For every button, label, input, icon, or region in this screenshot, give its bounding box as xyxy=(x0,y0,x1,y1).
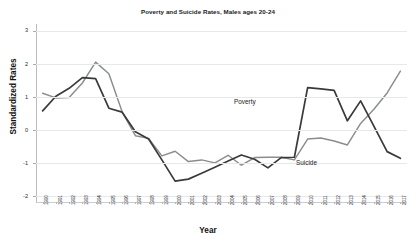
x-tick-mark xyxy=(162,202,163,204)
x-tick-label: 1999 xyxy=(164,195,169,205)
x-tick-mark xyxy=(387,202,388,204)
x-tick-mark xyxy=(215,202,216,204)
y-tick-label: 1 xyxy=(2,94,28,100)
x-tick-mark xyxy=(109,202,110,204)
chart-figure: Poverty and Suicide Rates, Males ages 20… xyxy=(0,0,416,239)
y-tick-label: -2 xyxy=(2,193,28,199)
gridline-y-2 xyxy=(36,64,407,65)
y-tick-label: 0 xyxy=(2,127,28,133)
x-tick-label: 2015 xyxy=(376,195,381,205)
x-tick-label: 1993 xyxy=(84,195,89,205)
x-tick-label: 1997 xyxy=(137,195,142,205)
x-tick-mark xyxy=(268,202,269,204)
x-tick-label: 2011 xyxy=(323,196,328,205)
gridline-y--1 xyxy=(36,163,407,164)
x-tick-mark xyxy=(69,202,70,204)
x-tick-label: 2001 xyxy=(190,195,195,205)
x-tick-label: 1995 xyxy=(111,195,116,205)
x-tick-mark xyxy=(281,202,282,204)
x-axis-tick-labels: 1990199119921993199419951996199719981999… xyxy=(36,203,407,227)
x-tick-label: 2010 xyxy=(309,195,314,205)
x-tick-mark xyxy=(374,202,375,204)
x-tick-label: 2008 xyxy=(283,195,288,205)
x-tick-label: 1992 xyxy=(71,195,76,205)
series-lines xyxy=(36,24,407,203)
x-tick-mark xyxy=(175,202,176,204)
x-tick-label: 2006 xyxy=(256,195,261,205)
x-tick-label: 2016 xyxy=(389,195,394,205)
x-tick-mark xyxy=(228,202,229,204)
chart-title: Poverty and Suicide Rates, Males ages 20… xyxy=(0,8,416,15)
x-tick-label: 2003 xyxy=(217,195,222,205)
y-tick-label: 3 xyxy=(2,27,28,33)
x-tick-mark xyxy=(56,202,57,204)
y-tick-label: -1 xyxy=(2,160,28,166)
x-tick-label: 2009 xyxy=(296,195,301,205)
series-label-suicide: Suicide xyxy=(296,159,317,166)
x-tick-mark xyxy=(334,202,335,204)
x-tick-label: 2000 xyxy=(177,195,182,205)
x-tick-label: 1998 xyxy=(150,195,155,205)
x-tick-label: 1994 xyxy=(97,195,102,205)
gridline-y-1 xyxy=(36,97,407,98)
x-tick-label: 2005 xyxy=(243,195,248,205)
x-tick-label: 2002 xyxy=(203,195,208,205)
x-tick-label: 2013 xyxy=(349,195,354,205)
x-tick-mark xyxy=(321,202,322,204)
x-tick-label: 1990 xyxy=(44,195,49,205)
plot-area xyxy=(36,24,407,203)
gridline-y-3 xyxy=(36,31,407,32)
x-tick-label: 2007 xyxy=(270,195,275,205)
x-tick-label: 1991 xyxy=(58,195,63,205)
series-label-poverty: Poverty xyxy=(234,98,256,105)
x-tick-mark xyxy=(122,202,123,204)
y-tick-label: 2 xyxy=(2,61,28,67)
gridline-y-0 xyxy=(36,130,407,131)
x-tick-label: 2017 xyxy=(402,195,407,205)
x-tick-label: 2012 xyxy=(336,195,341,205)
x-axis-title: Year xyxy=(0,226,416,235)
x-tick-label: 1996 xyxy=(124,195,129,205)
x-tick-label: 2004 xyxy=(230,195,235,205)
x-tick-label: 2014 xyxy=(362,195,367,205)
line-suicide xyxy=(43,62,401,165)
